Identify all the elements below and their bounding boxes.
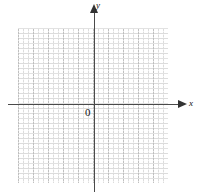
origin-label: 0 [85,107,91,118]
grid-background [18,28,168,183]
y-axis-line [94,12,95,192]
coordinate-plane-figure: y x 0 [0,0,199,195]
y-axis-label: y [96,1,100,10]
x-axis-arrow-icon [178,100,187,108]
x-axis-label: x [189,99,193,108]
